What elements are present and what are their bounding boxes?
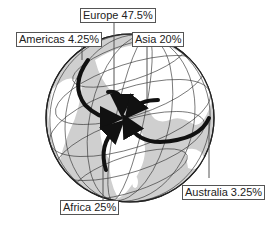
label-americas: Americas 4.25% (16, 32, 102, 47)
label-europe: Europe 47.5% (80, 8, 156, 23)
label-asia: Asia 20% (132, 32, 184, 47)
label-africa: Africa 25% (60, 200, 119, 215)
label-australia: Australia 3.25% (182, 185, 265, 200)
